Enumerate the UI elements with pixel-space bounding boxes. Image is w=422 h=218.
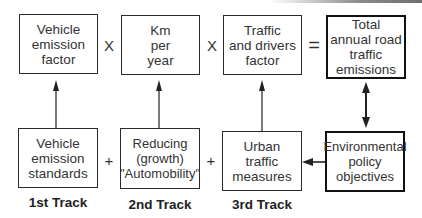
arrow-up-icon bbox=[53, 80, 59, 128]
arrow-up-icon bbox=[259, 80, 265, 131]
arrow-up-icon bbox=[156, 80, 162, 128]
connector-arrows bbox=[0, 0, 422, 218]
arrow-left-icon bbox=[302, 158, 325, 166]
double-arrow-icon bbox=[362, 82, 370, 128]
